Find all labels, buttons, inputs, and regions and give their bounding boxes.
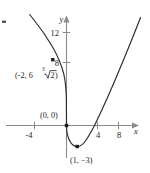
y-axis-label: y [59,14,64,24]
y-tick-label-12: 12 [51,28,60,38]
label-minus2-root-index: 3 [42,66,45,72]
x-axis [6,122,139,129]
x-axis-label: x [133,126,138,136]
cube-root-curve [30,15,141,147]
label-minus2-prefix: (-2, 6 [15,71,33,80]
label-point-minus2: (-2, 6 3 2 ) [15,66,58,80]
point-marker-vertex [76,145,79,148]
point-marker-origin [65,124,68,127]
x-tick-label-8: 8 [117,130,121,140]
y-tick-label-8: 8 [55,58,59,68]
page-speck-artifact [2,21,6,24]
label-point-origin: (0, 0) [40,111,58,120]
x-tick-label--4: -4 [25,130,33,140]
graph-figure: -4 4 8 12 8 x y (-2, 6 3 2 ) (0, 0) (1, … [0,0,150,173]
y-axis [63,16,70,159]
x-tick-label-4: 4 [96,130,101,140]
label-minus2-radicand: 2 [51,71,55,80]
y-axis-arrow-icon [63,16,69,23]
label-minus2-suffix: ) [55,71,58,80]
coordinate-plot-svg: -4 4 8 12 8 x y (-2, 6 3 2 ) (0, 0) (1, … [0,0,150,173]
label-point-vertex: (1, −3) [70,156,93,165]
